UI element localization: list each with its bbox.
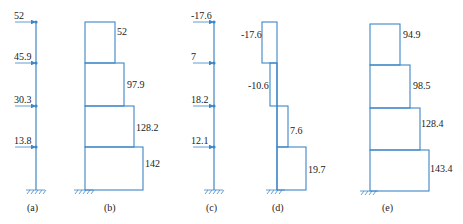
load-label: 7 [191, 51, 196, 62]
fixed-support-icon [204, 190, 224, 194]
story-bar [277, 147, 306, 190]
story-bar [370, 24, 400, 65]
value-label: 143.4 [430, 163, 453, 174]
fixed-support-icon [360, 191, 378, 195]
story-bar [370, 108, 420, 150]
panel-e: 94.9 98.5 128.4 143.4 (e) [360, 24, 453, 214]
load-label: 52 [14, 10, 24, 21]
load-label: 13.8 [14, 135, 32, 146]
value-label: 128.2 [136, 122, 159, 133]
value-label: 19.7 [308, 164, 326, 175]
fixed-support-icon [266, 190, 285, 194]
load-label: 12.1 [191, 135, 209, 146]
story-bar [277, 106, 288, 147]
load-label: 45.9 [14, 51, 32, 62]
panel-d: -17.6 -10.6 7.6 19.7 (d) [241, 22, 326, 214]
panel-caption: (c) [206, 202, 217, 214]
value-label: 7.6 [290, 125, 303, 136]
value-label: -10.6 [248, 80, 269, 91]
story-bar [270, 63, 277, 106]
panel-caption: (a) [27, 202, 38, 214]
value-label: 98.5 [413, 80, 431, 91]
load-label: 18.2 [191, 94, 209, 105]
value-label: 128.4 [421, 118, 444, 129]
fixed-support-icon [26, 190, 46, 194]
diagram-canvas: 52 45.9 30.3 13.8 (a) 52 97.9 128.2 142 [0, 0, 463, 224]
value-label: 52 [117, 26, 127, 37]
story-bar [262, 22, 277, 63]
story-bar [85, 63, 124, 106]
value-label: -17.6 [241, 29, 262, 40]
story-bar [85, 147, 143, 190]
load-arrows [15, 20, 38, 148]
panel-c: -17.6 7 18.2 12.1 (c) [191, 10, 224, 214]
load-label: -17.6 [191, 10, 212, 21]
story-bar [370, 65, 410, 108]
story-bar [370, 150, 429, 191]
panel-b: 52 97.9 128.2 142 (b) [74, 22, 160, 214]
fixed-support-icon [74, 190, 94, 194]
panel-caption: (b) [104, 202, 116, 214]
load-arrows [193, 20, 216, 148]
story-bar [85, 106, 134, 147]
value-label: 142 [145, 158, 160, 169]
panel-a: 52 45.9 30.3 13.8 (a) [14, 10, 46, 214]
value-label: 97.9 [127, 79, 145, 90]
value-label: 94.9 [403, 29, 421, 40]
panel-caption: (d) [272, 202, 284, 214]
panel-caption: (e) [382, 202, 393, 214]
story-bar [85, 22, 115, 63]
load-label: 30.3 [14, 94, 32, 105]
